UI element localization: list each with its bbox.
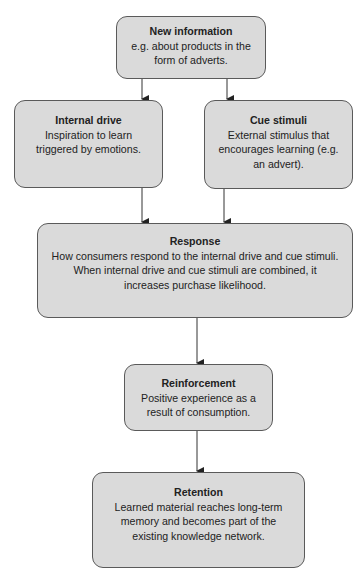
node-title: Internal drive <box>15 113 162 128</box>
node-cue-stimuli: Cue stimuli External stimulus that encou… <box>204 100 353 189</box>
node-title: Reinforcement <box>125 376 272 391</box>
node-description: How consumers respond to the internal dr… <box>38 249 352 293</box>
node-retention: Retention Learned material reaches long-… <box>92 472 305 568</box>
node-description: Positive experience as a result of consu… <box>125 391 272 420</box>
node-title: Response <box>38 234 352 249</box>
node-response: Response How consumers respond to the in… <box>37 223 353 318</box>
node-title: Retention <box>93 485 304 500</box>
node-internal-drive: Internal drive Inspiration to learn trig… <box>14 100 163 188</box>
node-reinforcement: Reinforcement Positive experience as a r… <box>124 364 273 431</box>
node-description: e.g. about products in the form of adver… <box>117 39 265 68</box>
node-title: Cue stimuli <box>205 113 352 128</box>
node-description: Learned material reaches long-term memor… <box>93 500 304 544</box>
node-title: New information <box>117 24 265 39</box>
node-description: External stimulus that encourages learni… <box>205 128 352 172</box>
node-new-information: New information e.g. about products in t… <box>116 16 266 79</box>
node-description: Inspiration to learn triggered by emotio… <box>15 128 162 157</box>
